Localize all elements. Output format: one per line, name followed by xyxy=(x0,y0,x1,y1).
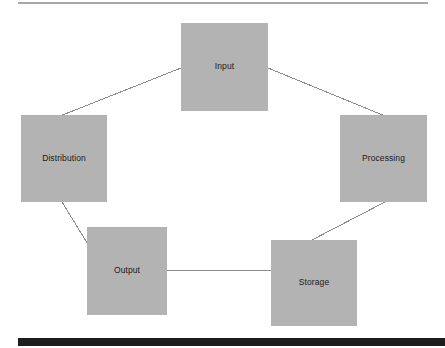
node-label-output: Output xyxy=(114,266,140,275)
node-input[interactable]: Input xyxy=(181,23,268,111)
node-label-processing: Processing xyxy=(362,154,405,163)
node-distribution[interactable]: Distribution xyxy=(21,115,107,202)
bottom-accent-bar xyxy=(18,338,445,346)
node-output[interactable]: Output xyxy=(87,227,167,315)
connector-distribution-to-input xyxy=(60,68,181,116)
connector-input-to-processing xyxy=(268,68,385,116)
node-label-distribution: Distribution xyxy=(42,154,86,163)
connector-distribution-to-output xyxy=(62,202,89,246)
node-processing[interactable]: Processing xyxy=(340,115,427,202)
diagram-canvas: InputDistributionProcessingOutputStorage xyxy=(0,0,445,348)
node-label-storage: Storage xyxy=(299,278,329,287)
node-label-input: Input xyxy=(215,62,234,71)
connector-processing-to-storage xyxy=(310,202,385,241)
node-storage[interactable]: Storage xyxy=(271,240,357,326)
